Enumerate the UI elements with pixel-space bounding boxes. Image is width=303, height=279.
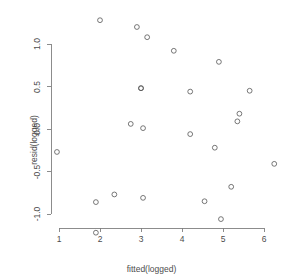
y-tick-label: 0.5	[33, 81, 42, 93]
data-point	[247, 88, 252, 93]
data-point	[94, 200, 99, 205]
data-point	[135, 25, 140, 30]
y-tick-label: 1.0	[33, 38, 42, 50]
x-tick-label: 1	[57, 235, 62, 244]
data-point	[235, 119, 240, 124]
data-point	[237, 111, 242, 116]
axis-layer	[47, 44, 264, 232]
scatter-plot-figure: 123456 -1.0-0.50.00.51.0 fitted(logged) …	[0, 0, 303, 279]
data-point	[212, 145, 217, 150]
data-point	[139, 86, 144, 91]
data-point	[202, 199, 207, 204]
data-point	[219, 217, 224, 222]
data-points-layer	[55, 18, 277, 235]
x-axis-title: fitted(logged)	[127, 265, 177, 274]
data-point	[98, 18, 103, 23]
x-tick-label: 4	[180, 235, 185, 244]
data-point	[229, 184, 234, 189]
x-tick-label: 2	[98, 235, 103, 244]
plot-canvas	[0, 0, 303, 279]
data-point	[55, 150, 60, 155]
x-tick-label: 6	[262, 235, 267, 244]
data-point	[188, 132, 193, 137]
x-tick-label: 5	[221, 235, 226, 244]
data-point	[145, 35, 150, 40]
data-point	[171, 48, 176, 53]
data-point	[188, 89, 193, 94]
data-point	[112, 192, 117, 197]
y-axis-title: resid(logged)	[30, 115, 39, 165]
data-point	[141, 126, 146, 131]
x-tick-label: 3	[139, 235, 144, 244]
y-tick-label: -0.5	[33, 164, 42, 179]
data-point	[141, 195, 146, 200]
data-point	[272, 161, 277, 166]
data-point	[217, 59, 222, 64]
data-point	[128, 122, 133, 127]
y-tick-label: -1.0	[33, 207, 42, 222]
